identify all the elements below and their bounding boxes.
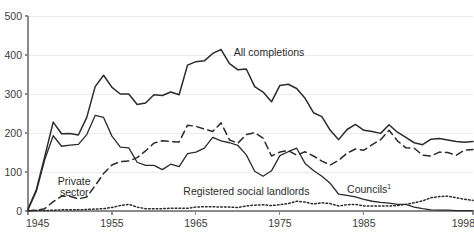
- chart-plot-area: 0100200300400500 19451955196519751985199…: [0, 0, 474, 239]
- x-tick-label-1955: 1955: [100, 217, 124, 229]
- y-tick-labels: 0100200300400500: [4, 10, 22, 217]
- y-tick-label-0: 0: [16, 205, 22, 217]
- series-label-councils: Councils1: [347, 183, 391, 195]
- x-tick-label-1945: 1945: [26, 217, 50, 229]
- gridlines: [28, 16, 473, 172]
- series-label-text: Councils: [347, 183, 387, 195]
- x-tick-label-1998: 1998: [452, 217, 474, 229]
- series-label-registered-social-landlords: Registered social landlords: [183, 185, 309, 197]
- y-tick-label-300: 300: [4, 88, 22, 100]
- x-tick-label-1985: 1985: [352, 217, 376, 229]
- series-label-private-sector: Privatesector: [58, 175, 91, 198]
- y-tick-label-100: 100: [4, 166, 22, 178]
- series-line-private-sector: [28, 123, 473, 211]
- series-label-text: Registered social landlords: [183, 185, 309, 197]
- x-tick-label-1975: 1975: [268, 217, 292, 229]
- x-tick-labels: 194519551965197519851998: [26, 217, 474, 229]
- series-label-text: All completions: [234, 46, 305, 58]
- series-label-superscript: 1: [387, 183, 391, 190]
- x-axis: [28, 211, 473, 215]
- y-tick-label-500: 500: [4, 10, 22, 22]
- y-axis: [25, 16, 29, 211]
- series-annotations: All completionsPrivatesectorCouncils1Reg…: [58, 46, 392, 198]
- series-label-line-2: sector: [60, 186, 89, 198]
- series-line-registered-social-landlords: [28, 196, 473, 210]
- x-tick-label-1965: 1965: [184, 217, 208, 229]
- housing-completions-chart: 0100200300400500 19451955196519751985199…: [0, 0, 474, 239]
- series-label-all-completions: All completions: [234, 46, 305, 58]
- y-tick-label-200: 200: [4, 127, 22, 139]
- y-tick-label-400: 400: [4, 49, 22, 61]
